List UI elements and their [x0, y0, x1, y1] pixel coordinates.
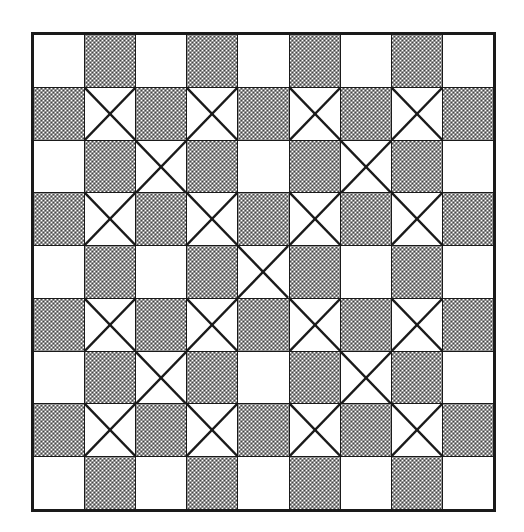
grid-cell-r4-c7[interactable] — [391, 246, 442, 299]
grid-cell-r3-c4[interactable] — [238, 193, 289, 246]
grid-cell-r7-c8[interactable] — [442, 404, 493, 457]
grid-cell-r2-c2[interactable] — [136, 140, 187, 193]
cross-icon — [290, 404, 340, 456]
grid-cell-r1-c3[interactable] — [187, 87, 238, 140]
grid-cell-r8-c8[interactable] — [442, 457, 493, 510]
grid-cell-r8-c7[interactable] — [391, 457, 442, 510]
grid-cell-r5-c2[interactable] — [136, 298, 187, 351]
cross-icon — [341, 141, 391, 193]
grid-cell-r8-c4[interactable] — [238, 457, 289, 510]
grid-cell-r7-c4[interactable] — [238, 404, 289, 457]
grid-cell-r7-c3[interactable] — [187, 404, 238, 457]
grid-row — [34, 140, 494, 193]
grid-row — [34, 193, 494, 246]
grid-cell-r7-c2[interactable] — [136, 404, 187, 457]
grid-cell-r0-c7[interactable] — [391, 35, 442, 88]
grid-cell-r8-c2[interactable] — [136, 457, 187, 510]
grid-cell-r1-c5[interactable] — [289, 87, 340, 140]
grid-cell-r6-c8[interactable] — [442, 351, 493, 404]
grid-cell-r5-c6[interactable] — [340, 298, 391, 351]
grid-cell-r5-c8[interactable] — [442, 298, 493, 351]
grid-cell-r4-c8[interactable] — [442, 246, 493, 299]
grid-cell-r6-c6[interactable] — [340, 351, 391, 404]
grid-cell-r1-c6[interactable] — [340, 87, 391, 140]
grid-cell-r2-c1[interactable] — [85, 140, 136, 193]
grid-cell-r1-c2[interactable] — [136, 87, 187, 140]
grid-cell-r1-c0[interactable] — [34, 87, 85, 140]
grid-cell-r6-c5[interactable] — [289, 351, 340, 404]
grid-cell-r4-c5[interactable] — [289, 246, 340, 299]
grid-cell-r5-c3[interactable] — [187, 298, 238, 351]
grid-cell-r1-c1[interactable] — [85, 87, 136, 140]
cross-icon — [238, 246, 288, 298]
grid-cell-r2-c6[interactable] — [340, 140, 391, 193]
grid-row — [34, 404, 494, 457]
grid-cell-r6-c7[interactable] — [391, 351, 442, 404]
grid-cell-r1-c7[interactable] — [391, 87, 442, 140]
cross-icon — [392, 299, 442, 351]
grid-cell-r3-c6[interactable] — [340, 193, 391, 246]
grid-cell-r6-c4[interactable] — [238, 351, 289, 404]
grid-cell-r8-c6[interactable] — [340, 457, 391, 510]
grid-cell-r3-c7[interactable] — [391, 193, 442, 246]
grid-cell-r5-c1[interactable] — [85, 298, 136, 351]
grid-cell-r7-c7[interactable] — [391, 404, 442, 457]
grid-cell-r0-c4[interactable] — [238, 35, 289, 88]
grid-cell-r0-c3[interactable] — [187, 35, 238, 88]
grid-cell-r3-c3[interactable] — [187, 193, 238, 246]
grid-cell-r4-c2[interactable] — [136, 246, 187, 299]
grid-cell-r5-c7[interactable] — [391, 298, 442, 351]
grid-cell-r8-c0[interactable] — [34, 457, 85, 510]
grid-cell-r3-c5[interactable] — [289, 193, 340, 246]
grid-cell-r5-c4[interactable] — [238, 298, 289, 351]
grid-cell-r3-c2[interactable] — [136, 193, 187, 246]
grid-cell-r5-c0[interactable] — [34, 298, 85, 351]
grid-cell-r7-c0[interactable] — [34, 404, 85, 457]
grid-cell-r0-c5[interactable] — [289, 35, 340, 88]
grid-cell-r2-c0[interactable] — [34, 140, 85, 193]
grid-cell-r1-c8[interactable] — [442, 87, 493, 140]
cross-icon — [85, 88, 135, 140]
grid-cell-r4-c4[interactable] — [238, 246, 289, 299]
cross-icon — [187, 88, 237, 140]
grid-cell-r4-c3[interactable] — [187, 246, 238, 299]
grid-cell-r6-c1[interactable] — [85, 351, 136, 404]
cross-icon — [341, 352, 391, 404]
grid-cell-r1-c4[interactable] — [238, 87, 289, 140]
grid-cell-r0-c8[interactable] — [442, 35, 493, 88]
grid-cell-r2-c5[interactable] — [289, 140, 340, 193]
grid-cell-r4-c6[interactable] — [340, 246, 391, 299]
grid-cell-r4-c0[interactable] — [34, 246, 85, 299]
grid-pattern-figure — [31, 32, 496, 512]
grid-cell-r2-c7[interactable] — [391, 140, 442, 193]
grid-cell-r5-c5[interactable] — [289, 298, 340, 351]
grid-cell-r7-c6[interactable] — [340, 404, 391, 457]
grid-cell-r0-c6[interactable] — [340, 35, 391, 88]
cross-icon — [187, 299, 237, 351]
grid-cell-r6-c3[interactable] — [187, 351, 238, 404]
grid-cell-r2-c4[interactable] — [238, 140, 289, 193]
grid-cell-r8-c1[interactable] — [85, 457, 136, 510]
grid-body — [34, 35, 494, 510]
cross-icon — [290, 299, 340, 351]
grid-cell-r7-c5[interactable] — [289, 404, 340, 457]
grid-cell-r8-c3[interactable] — [187, 457, 238, 510]
grid-cell-r0-c0[interactable] — [34, 35, 85, 88]
grid-cell-r3-c0[interactable] — [34, 193, 85, 246]
grid-cell-r0-c1[interactable] — [85, 35, 136, 88]
grid-cell-r8-c5[interactable] — [289, 457, 340, 510]
cross-icon — [85, 299, 135, 351]
grid-cell-r4-c1[interactable] — [85, 246, 136, 299]
grid-cell-r2-c8[interactable] — [442, 140, 493, 193]
grid-cell-r3-c1[interactable] — [85, 193, 136, 246]
grid-row — [34, 298, 494, 351]
grid-cell-r2-c3[interactable] — [187, 140, 238, 193]
cross-icon — [187, 404, 237, 456]
grid-cell-r6-c2[interactable] — [136, 351, 187, 404]
grid-cell-r6-c0[interactable] — [34, 351, 85, 404]
grid-cell-r0-c2[interactable] — [136, 35, 187, 88]
grid-cell-r7-c1[interactable] — [85, 404, 136, 457]
grid-row — [34, 457, 494, 510]
grid-row — [34, 87, 494, 140]
grid-cell-r3-c8[interactable] — [442, 193, 493, 246]
